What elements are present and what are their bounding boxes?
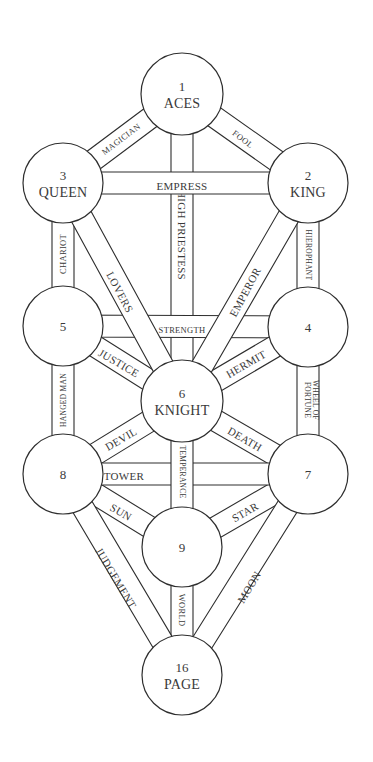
sephira-8: 8 <box>23 434 103 514</box>
sephira-4: 4 <box>268 287 348 367</box>
sephira-name: ACES <box>164 96 201 111</box>
sephira-number: 6 <box>179 386 186 401</box>
path-label: TEMPERANCE <box>178 445 187 498</box>
sephira-9: 9 <box>142 507 222 587</box>
sephira-6: 6KNIGHT <box>141 360 223 442</box>
sephira-name: PAGE <box>164 677 200 692</box>
sephira-name: QUEEN <box>39 185 87 200</box>
sephira-16: 16PAGE <box>142 635 222 715</box>
sephira-2: 2KING <box>268 143 348 223</box>
sephira-circle <box>23 143 103 223</box>
path-label: WHEEL OFFORTUNE <box>303 380 320 420</box>
path-label: STRENGTH <box>159 325 206 335</box>
sephira-circle <box>141 53 223 135</box>
path-label: WORLD <box>177 594 187 627</box>
sephira-number: 1 <box>179 79 186 94</box>
tree-of-life-svg: HIGH PRIESTESSWORLDSTRENGTHMAGICIANFOOLC… <box>0 0 373 762</box>
path-label: HANGED MAN <box>59 373 68 427</box>
sephira-number: 8 <box>60 467 67 482</box>
sephira-3: 3QUEEN <box>23 143 103 223</box>
path-high-priestess: HIGH PRIESTESS <box>171 94 193 401</box>
sephira-1: 1ACES <box>141 53 223 135</box>
tree-of-life-diagram: HIGH PRIESTESSWORLDSTRENGTHMAGICIANFOOLC… <box>0 0 373 762</box>
sephira-number: 2 <box>305 168 312 183</box>
path-label: HIGH PRIESTESS <box>176 190 188 280</box>
sephira-number: 9 <box>179 540 186 555</box>
path-label: HIEROPHANT <box>304 230 313 281</box>
sephira-circle <box>268 143 348 223</box>
sephira-number: 7 <box>305 467 312 482</box>
sephira-circle <box>142 635 222 715</box>
sephira-number: 5 <box>60 319 67 334</box>
sephira-7: 7 <box>268 434 348 514</box>
sephira-name: KING <box>290 185 326 200</box>
sephira-5: 5 <box>23 286 103 366</box>
sephira-number: 4 <box>305 320 312 335</box>
path-label: CHARIOT <box>58 234 68 274</box>
path-label: EMPRESS <box>156 180 207 192</box>
sephira-name: KNIGHT <box>155 403 210 418</box>
path-label: TOWER <box>104 470 145 482</box>
sephira-number: 3 <box>60 168 67 183</box>
sephira-number: 16 <box>176 660 190 675</box>
sephira-circle <box>141 360 223 442</box>
